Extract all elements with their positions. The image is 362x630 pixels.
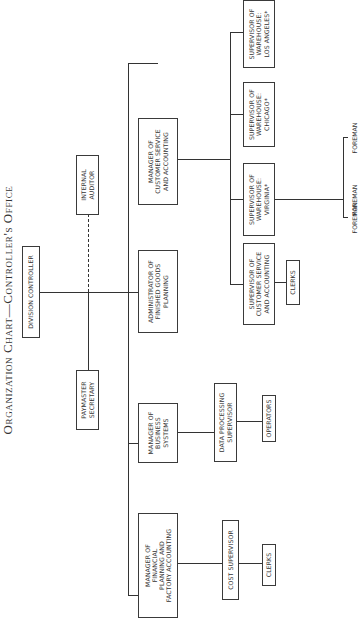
connector <box>178 159 230 160</box>
dashed-connector-auditor <box>88 214 89 292</box>
connector <box>230 284 243 285</box>
mgr-customer-service-label: Manager of Customer Service and Accounti… <box>147 129 169 194</box>
sup-customer-service-label: Supervisor of Customer Service and Accou… <box>248 252 270 317</box>
connector <box>343 217 348 218</box>
sup-wh-chicago-label: Supervisor of Warehouse: Chicago* <box>248 89 270 140</box>
mgr-business-systems-label: Manager of Business Systems <box>147 412 169 455</box>
clerks-cost-label: Clerks <box>265 553 272 578</box>
division-controller-box: Division Controller <box>22 246 40 338</box>
clerks-cost-box: Clerks <box>262 544 276 586</box>
org-chart: Organization Chart—Controller's Office D… <box>0 0 362 630</box>
connector <box>230 32 243 33</box>
connector <box>40 292 129 293</box>
sup-wh-virginia-label: Supervisor of Warehouse: Virginia* <box>248 174 270 225</box>
sup-wh-virginia-box: Supervisor of Warehouse: Virginia* <box>243 163 275 236</box>
connector <box>239 563 262 564</box>
mgr-customer-service-box: Manager of Customer Service and Accounti… <box>138 118 178 205</box>
mgr-business-systems-box: Manager of Business Systems <box>138 403 178 463</box>
connector <box>343 137 348 138</box>
clerks-customer-service-box: Clerks <box>286 260 300 305</box>
foreman-label-2: Foreman <box>351 180 358 220</box>
paymaster-secretary-label: Paymaster Secretary <box>80 381 94 418</box>
sup-wh-los-angeles-label: Supervisor of Warehouse: Los Angeles* <box>248 9 270 60</box>
paymaster-secretary-box: Paymaster Secretary <box>76 370 99 430</box>
connector <box>237 421 262 422</box>
foreman-label-3: Foreman <box>351 118 358 158</box>
connector <box>275 199 343 200</box>
operators-label: Operators <box>265 399 272 437</box>
admin-finished-goods-label: Administrator of Finished Goods Planning <box>147 260 169 323</box>
cost-supervisor-box: Cost Supervisor <box>222 520 239 600</box>
manager-bus <box>128 63 129 596</box>
connector <box>275 282 286 283</box>
mgr-financial-planning-box: Manager of Financial Planning and Factor… <box>138 513 178 618</box>
sup-wh-los-angeles-box: Supervisor of Warehouse: Los Angeles* <box>243 0 275 68</box>
connector <box>128 292 138 293</box>
connector <box>230 199 243 200</box>
chart-title: Organization Chart—Controller's Office <box>0 120 18 500</box>
connector <box>230 114 243 115</box>
data-processing-supervisor-box: Data Processing Supervisor <box>214 383 237 462</box>
sup-customer-service-box: Supervisor of Customer Service and Accou… <box>243 243 275 325</box>
warehouse-bus <box>230 32 231 285</box>
internal-auditor-box: Internal Auditor <box>76 155 99 215</box>
connector <box>128 63 158 64</box>
foreman-bus <box>343 137 344 218</box>
mgr-financial-planning-label: Manager of Financial Planning and Factor… <box>144 529 173 602</box>
operators-box: Operators <box>262 395 276 442</box>
internal-auditor-label: Internal Auditor <box>80 169 94 201</box>
sup-wh-chicago-box: Supervisor of Warehouse: Chicago* <box>243 82 275 147</box>
connector <box>178 563 222 564</box>
cost-supervisor-label: Cost Supervisor <box>227 530 234 590</box>
admin-finished-goods-box: Administrator of Finished Goods Planning <box>138 250 178 333</box>
division-controller-label: Division Controller <box>27 255 34 329</box>
data-processing-supervisor-label: Data Processing Supervisor <box>218 393 232 453</box>
clerks-customer-service-label: Clerks <box>289 270 296 295</box>
connector <box>178 432 214 433</box>
